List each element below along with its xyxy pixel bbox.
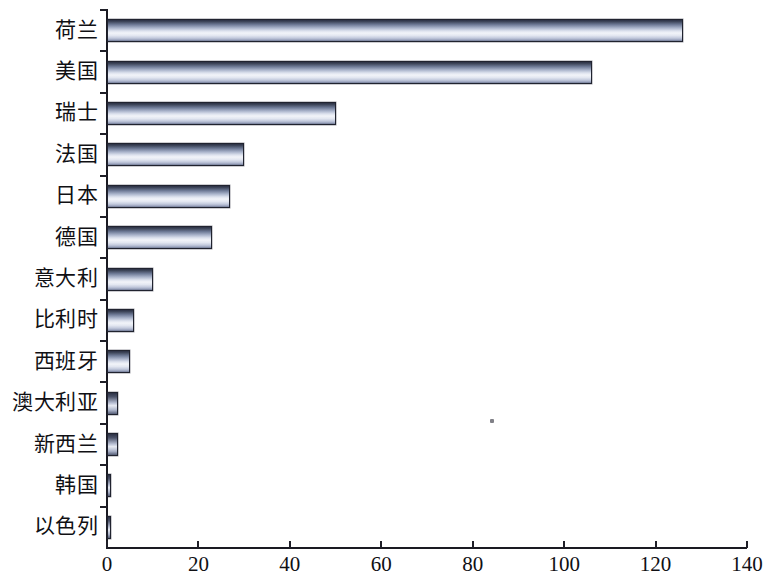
x-axis-tick [106, 541, 108, 548]
y-axis-tick [100, 50, 107, 52]
x-axis-tick [563, 541, 565, 548]
bar-瑞士 [107, 102, 336, 125]
y-axis-tick [100, 381, 107, 383]
bar-澳大利亚 [107, 392, 118, 415]
bar-韩国 [107, 474, 111, 497]
category-label-德国: 德国 [0, 227, 98, 248]
bar-荷兰 [107, 19, 683, 42]
x-axis-tick-label-100: 100 [548, 552, 580, 576]
x-axis-tick-label-60: 60 [371, 552, 392, 576]
x-axis-tick [197, 541, 199, 548]
y-axis-tick [100, 506, 107, 508]
y-axis-tick [100, 9, 107, 11]
x-axis-tick-label-80: 80 [462, 552, 483, 576]
x-axis-tick-label-0: 0 [102, 552, 113, 576]
plot-area [107, 10, 747, 548]
y-axis-tick [100, 257, 107, 259]
bar-新西兰 [107, 433, 118, 456]
x-axis-tick [746, 541, 748, 548]
y-axis-tick [100, 92, 107, 94]
y-axis-tick [100, 464, 107, 466]
y-axis-tick [100, 175, 107, 177]
bar-比利时 [107, 309, 134, 332]
bar-西班牙 [107, 350, 130, 373]
y-axis-tick [100, 216, 107, 218]
bar-chart: 荷兰美国瑞士法国日本德国意大利比利时西班牙澳大利亚新西兰韩国以色列 020406… [0, 0, 765, 582]
bar-德国 [107, 226, 212, 249]
category-label-瑞士: 瑞士 [0, 102, 98, 123]
category-label-韩国: 韩国 [0, 475, 98, 496]
y-axis-tick [100, 133, 107, 135]
x-axis-tick [472, 541, 474, 548]
category-label-以色列: 以色列 [0, 516, 98, 537]
category-label-新西兰: 新西兰 [0, 434, 98, 455]
bar-日本 [107, 185, 230, 208]
category-label-日本: 日本 [0, 185, 98, 206]
category-label-西班牙: 西班牙 [0, 351, 98, 372]
x-axis-tick [380, 541, 382, 548]
bar-以色列 [107, 516, 111, 539]
y-axis-tick [100, 299, 107, 301]
x-axis-tick-label-20: 20 [188, 552, 209, 576]
category-label-法国: 法国 [0, 144, 98, 165]
bar-美国 [107, 61, 592, 84]
y-axis-tick [100, 423, 107, 425]
category-axis-labels: 荷兰美国瑞士法国日本德国意大利比利时西班牙澳大利亚新西兰韩国以色列 [0, 0, 98, 582]
bar-法国 [107, 143, 244, 166]
x-axis-tick-label-140: 140 [731, 552, 763, 576]
x-axis-tick [289, 541, 291, 548]
x-axis-tick-label-120: 120 [640, 552, 672, 576]
x-axis-tick-label-40: 40 [279, 552, 300, 576]
category-label-意大利: 意大利 [0, 268, 98, 289]
category-label-澳大利亚: 澳大利亚 [0, 392, 98, 413]
y-axis-tick [100, 340, 107, 342]
scan-speck-artifact [490, 419, 494, 423]
x-axis-tick [655, 541, 657, 548]
category-label-美国: 美国 [0, 61, 98, 82]
category-label-比利时: 比利时 [0, 309, 98, 330]
category-label-荷兰: 荷兰 [0, 20, 98, 41]
bar-意大利 [107, 268, 153, 291]
